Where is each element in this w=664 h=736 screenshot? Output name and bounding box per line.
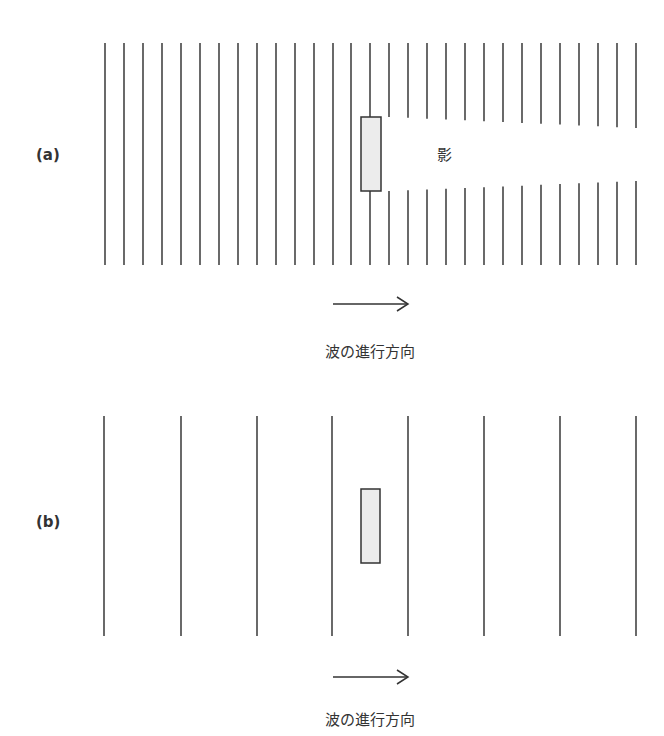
direction-caption-b: 波の進行方向 xyxy=(270,708,470,729)
wave-diagram xyxy=(0,0,664,736)
obstacle-b xyxy=(361,489,380,563)
arrow-icon xyxy=(333,297,408,311)
direction-caption-a: 波の進行方向 xyxy=(270,340,470,361)
shadow-label: 影 xyxy=(437,143,452,164)
obstacle-a xyxy=(361,117,381,191)
arrow-icon xyxy=(333,670,408,684)
